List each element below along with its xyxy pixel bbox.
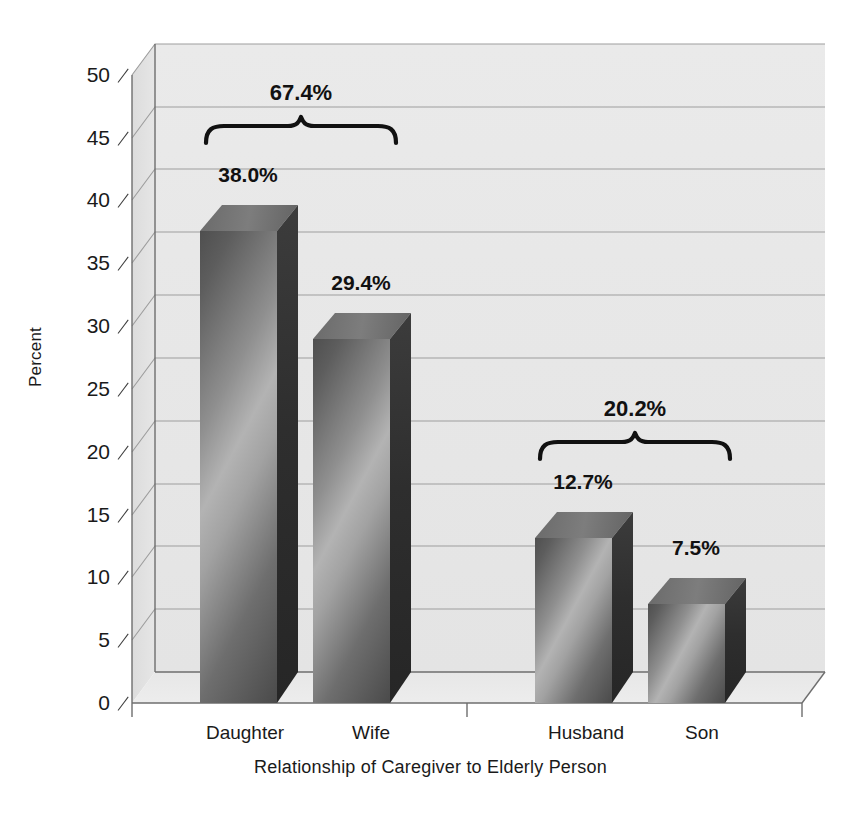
- y-tick-label-35: 35: [52, 251, 110, 275]
- x-axis-ticks: [132, 703, 802, 717]
- bar-daughter: [200, 205, 298, 703]
- group-total-label-female: 67.4%: [270, 80, 332, 106]
- chart-figure: 50 45 40 35 30 25 20 15 10 5 0 Percent 3…: [0, 0, 861, 817]
- bar-son: [648, 578, 746, 703]
- bar-front-face: [200, 231, 277, 703]
- bar-husband: [535, 512, 633, 703]
- y-tick-label-25: 25: [52, 377, 110, 401]
- y-tick-label-30: 30: [52, 314, 110, 338]
- bar-side-face: [390, 313, 411, 703]
- bar-front-face: [535, 538, 612, 703]
- x-category-label-daughter: Daughter: [206, 722, 284, 744]
- y-tick-label-50: 50: [52, 63, 110, 87]
- y-tick-label-0: 0: [52, 691, 110, 715]
- y-tick-label-40: 40: [52, 188, 110, 212]
- x-category-label-husband: Husband: [548, 722, 624, 744]
- x-axis-title: Relationship of Caregiver to Elderly Per…: [0, 757, 861, 778]
- group-total-label-male: 20.2%: [604, 396, 666, 422]
- y-tick-label-10: 10: [52, 565, 110, 589]
- x-category-label-son: Son: [685, 722, 719, 744]
- bar-value-label-wife: 29.4%: [331, 271, 391, 295]
- y-tick-label-15: 15: [52, 503, 110, 527]
- y-axis-title: Percent: [26, 343, 46, 387]
- x-category-label-wife: Wife: [352, 722, 390, 744]
- bar-value-label-son: 7.5%: [672, 536, 720, 560]
- bar-value-label-husband: 12.7%: [553, 470, 613, 494]
- bar-side-face: [277, 205, 298, 703]
- bar-wife: [313, 313, 411, 703]
- bar-value-label-daughter: 38.0%: [218, 163, 278, 187]
- bar-front-face: [648, 604, 725, 703]
- y-tick-label-5: 5: [52, 628, 110, 652]
- bar-front-face: [313, 339, 390, 703]
- bar-side-face: [612, 512, 633, 703]
- y-tick-label-45: 45: [52, 126, 110, 150]
- y-tick-label-20: 20: [52, 440, 110, 464]
